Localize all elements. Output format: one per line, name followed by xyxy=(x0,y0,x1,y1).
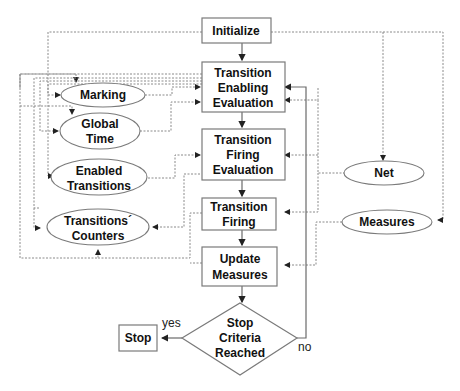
process-initialize: Initialize xyxy=(202,18,271,43)
enabling-label-3: Evaluation xyxy=(213,96,274,110)
edge-initialize-net xyxy=(271,32,383,160)
edge-net-firing xyxy=(285,173,318,212)
edge-label-yes: yes xyxy=(162,316,181,330)
edge-enabled-firingeval xyxy=(148,155,200,178)
edge-firingeval-counters xyxy=(153,174,200,227)
enabled-transitions-label-1: Enabled xyxy=(76,164,123,178)
datastore-measures: Measures xyxy=(342,210,432,234)
counters-label-1: Transitions´ xyxy=(64,214,132,228)
enabling-label-1: Transition xyxy=(214,66,271,80)
global-time-label-2: Time xyxy=(86,132,114,146)
decision-label-2: Criteria xyxy=(219,331,261,345)
firing-eval-label-2: Firing xyxy=(226,148,259,162)
update-label-2: Measures xyxy=(212,268,268,282)
process-transition-firing: Transition Firing xyxy=(202,198,276,230)
edge-marking-enabling xyxy=(145,87,200,95)
flowchart-canvas: Initialize Transition Enabling Evaluatio… xyxy=(0,0,460,391)
process-update-measures: Update Measures xyxy=(202,247,277,286)
edge-net-enabling xyxy=(285,100,345,173)
datastore-marking: Marking xyxy=(61,83,145,107)
datastore-net: Net xyxy=(344,161,424,185)
enabling-label-2: Enabling xyxy=(218,81,269,95)
firing-label-1: Transition xyxy=(210,200,267,214)
firing-eval-label-3: Evaluation xyxy=(213,163,274,177)
process-transition-firing-evaluation: Transition Firing Evaluation xyxy=(202,129,285,180)
decision-label-3: Reached xyxy=(215,346,265,360)
firing-eval-label-1: Transition xyxy=(214,133,271,147)
edge-initialize-measures xyxy=(383,32,443,220)
initialize-label: Initialize xyxy=(212,24,260,38)
firing-label-2: Firing xyxy=(222,215,255,229)
measures-label: Measures xyxy=(359,215,415,229)
enabled-transitions-label-2: Transitions xyxy=(67,179,131,193)
marking-label: Marking xyxy=(80,88,126,102)
edge-globaltime-loop xyxy=(20,106,72,114)
net-label: Net xyxy=(374,166,393,180)
edge-measures-update xyxy=(285,222,342,265)
update-label-1: Update xyxy=(220,252,261,266)
edge-globaltime-enabling xyxy=(140,102,200,131)
decision-stop-criteria: Stop Criteria Reached xyxy=(182,303,297,375)
process-stop: Stop xyxy=(119,325,157,351)
datastore-global-time: Global Time xyxy=(60,113,140,149)
global-time-label-1: Global xyxy=(81,117,118,131)
process-transition-enabling-evaluation: Transition Enabling Evaluation xyxy=(202,62,285,112)
counters-label-2: Counters xyxy=(72,229,125,243)
datastore-transitions-counters: Transitions´ Counters xyxy=(47,209,149,245)
edge-label-no: no xyxy=(298,340,312,354)
datastore-enabled-transitions: Enabled Transitions xyxy=(51,159,147,195)
stop-label: Stop xyxy=(125,331,152,345)
decision-label-1: Stop xyxy=(227,316,254,330)
edge-counters-input xyxy=(34,208,40,228)
